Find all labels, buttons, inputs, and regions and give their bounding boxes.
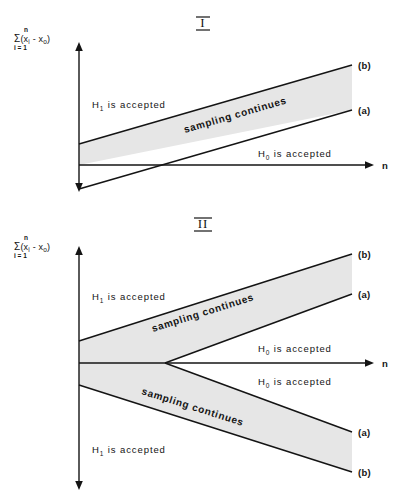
- region-h0-upper-label-panel-2: H0 is accepted: [258, 343, 332, 356]
- boundary-label-b-lower-panel-2: (b): [358, 467, 371, 478]
- region-h1-upper-label-panel-2: H1 is accepted: [92, 291, 166, 304]
- boundary-label-b-upper-panel-2: (b): [358, 249, 371, 260]
- panel-2-plot: II H1 is accepted H0 is accepted H0 is a…: [0, 0, 406, 503]
- x-axis-name-panel-2: n: [382, 358, 388, 369]
- y-axis-arrow-up-panel-2: [75, 246, 83, 255]
- x-axis-arrow-panel-2: [365, 359, 374, 367]
- figure-page: n Σ(xi - xo) i = 1 I H1 is: [0, 0, 406, 503]
- region-h0-lower-label-panel-2: H0 is accepted: [258, 376, 332, 389]
- y-axis-arrow-down-panel-2: [75, 481, 83, 490]
- region-h1-lower-label-panel-2: H1 is accepted: [92, 444, 166, 457]
- boundary-label-a-lower-panel-2: (a): [358, 427, 371, 438]
- boundary-label-a-upper-panel-2: (a): [358, 289, 371, 300]
